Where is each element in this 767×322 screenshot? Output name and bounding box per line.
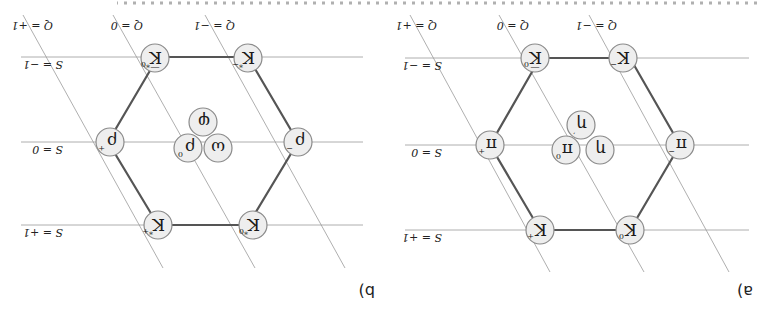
- svg-text:ρ: ρ: [295, 132, 305, 152]
- q-label-0: Q = 0: [111, 19, 143, 32]
- svg-text:*0: *0: [141, 60, 150, 69]
- particle-pi-minus: π −: [666, 131, 694, 159]
- particle-pi-plus: π +: [476, 131, 504, 159]
- s-label-minus1: S = −1: [23, 58, 63, 71]
- svg-text:η: η: [577, 115, 587, 135]
- meson-nonet-figure: a) S = +1 S = 0 S = −1 Q = −1 Q = 0 Q = …: [0, 0, 767, 322]
- svg-text:′: ′: [573, 127, 575, 136]
- panel-a-label: a): [737, 282, 753, 301]
- svg-text:+: +: [478, 147, 485, 156]
- s-label-plus1: S = +1: [23, 226, 63, 239]
- particle-omega: ω: [204, 134, 232, 162]
- figure-canvas: a) S = +1 S = 0 S = −1 Q = −1 Q = 0 Q = …: [0, 0, 767, 322]
- svg-text:η: η: [596, 140, 606, 160]
- svg-text:K: K: [617, 48, 630, 68]
- particle-eta: η: [586, 136, 614, 164]
- svg-text:−: −: [668, 147, 675, 156]
- svg-text:−: −: [610, 60, 617, 69]
- hexagon-outline: [490, 58, 680, 230]
- svg-text:K̅: K̅: [529, 48, 542, 68]
- svg-text:−: −: [286, 144, 293, 153]
- particle-k-plus: K +: [526, 216, 554, 244]
- svg-text:π: π: [562, 140, 573, 160]
- q-label-plus1: Q = +1: [396, 19, 437, 32]
- q-label-minus1: Q = −1: [194, 19, 235, 32]
- particle-rho0: ρ 0: [174, 134, 202, 162]
- svg-text:K: K: [534, 220, 547, 240]
- particle-phi: φ: [189, 108, 217, 136]
- s-label-plus1: S = +1: [402, 231, 442, 244]
- panel-b-label: b): [359, 282, 375, 301]
- svg-text:+: +: [98, 144, 105, 153]
- particle-k-star-0-bar: K̅ *0: [141, 44, 169, 72]
- s-label-0: S = 0: [411, 146, 442, 159]
- panel-b: b) S = +1 S = 0 S = −1 Q = −1 Q = 0 Q = …: [12, 15, 375, 301]
- particle-eta-prime: η ′: [567, 111, 595, 139]
- particle-k-star-plus: K *+: [142, 211, 172, 239]
- q-label-minus1: Q = −1: [576, 19, 617, 32]
- svg-text:ρ: ρ: [107, 132, 117, 152]
- svg-text:*0: *0: [239, 227, 248, 236]
- panel-a: a) S = +1 S = 0 S = −1 Q = −1 Q = 0 Q = …: [396, 15, 753, 301]
- s-label-0: S = 0: [32, 143, 63, 156]
- svg-text:0: 0: [178, 150, 183, 159]
- svg-text:ρ: ρ: [185, 138, 195, 158]
- svg-text:*+: *+: [142, 227, 153, 236]
- s-label-minus1: S = −1: [402, 59, 442, 72]
- particle-k0: K 0: [616, 216, 644, 244]
- q-label-0: Q = 0: [497, 19, 529, 32]
- svg-text:φ: φ: [198, 112, 210, 132]
- particle-k-minus: K −: [609, 44, 637, 72]
- svg-text:π: π: [486, 135, 497, 155]
- particle-k0-bar: K̅ 0: [521, 44, 549, 72]
- svg-text:ω: ω: [211, 138, 225, 158]
- particle-rho-plus: ρ +: [96, 128, 124, 156]
- svg-text:K: K: [624, 220, 637, 240]
- q-label-plus1: Q = +1: [12, 19, 53, 32]
- particle-pi0: π 0: [552, 136, 580, 164]
- svg-text:0: 0: [619, 232, 624, 241]
- svg-text:+: +: [527, 232, 534, 241]
- particle-rho-minus: ρ −: [284, 128, 312, 156]
- svg-text:π: π: [676, 135, 687, 155]
- svg-text:0: 0: [524, 60, 529, 69]
- particle-k-star-minus: K *−: [232, 44, 262, 72]
- svg-text:0: 0: [556, 152, 561, 161]
- particle-k-star-0: K *0: [239, 211, 267, 239]
- svg-text:*−: *−: [232, 60, 243, 69]
- caption-fragment: [107, 0, 767, 8]
- hexagon-outline: [108, 57, 298, 225]
